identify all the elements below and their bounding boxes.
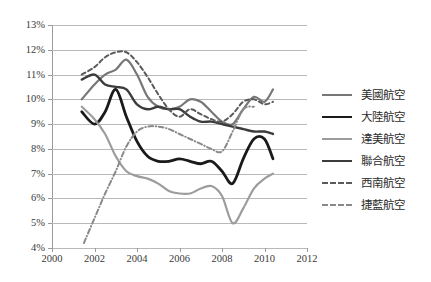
y-tick-label: 4% bbox=[15, 243, 45, 254]
series-line bbox=[82, 60, 273, 125]
y-tick-label: 12% bbox=[15, 45, 45, 56]
legend-item[interactable]: 美國航空 bbox=[322, 84, 427, 106]
legend-swatch-6 bbox=[322, 204, 352, 206]
y-tick-label: 5% bbox=[15, 218, 45, 229]
y-tick-mark bbox=[48, 124, 52, 125]
y-tick-mark bbox=[48, 50, 52, 51]
y-tick-label: 9% bbox=[15, 119, 45, 130]
x-tick-label: 2000 bbox=[32, 253, 72, 264]
legend-label: 大陸航空 bbox=[361, 111, 405, 123]
x-tick-mark bbox=[137, 248, 138, 252]
legend-label: 聯合航空 bbox=[361, 155, 405, 167]
y-tick-label: 13% bbox=[15, 20, 45, 31]
chart-legend: 美國航空大陸航空達美航空聯合航空西南航空捷藍航空 bbox=[322, 84, 427, 216]
x-tick-mark bbox=[307, 248, 308, 252]
y-tick-mark bbox=[48, 99, 52, 100]
legend-swatch-1 bbox=[322, 94, 352, 96]
x-tick-label: 2008 bbox=[202, 253, 242, 264]
legend-label: 達美航空 bbox=[361, 133, 405, 145]
y-tick-mark bbox=[48, 223, 52, 224]
y-tick-mark bbox=[48, 174, 52, 175]
y-tick-mark bbox=[48, 75, 52, 76]
series-line bbox=[82, 74, 273, 134]
x-tick-label: 2006 bbox=[160, 253, 200, 264]
y-tick-mark bbox=[48, 198, 52, 199]
x-tick-label: 2012 bbox=[287, 253, 327, 264]
legend-item[interactable]: 達美航空 bbox=[322, 128, 427, 150]
y-tick-label: 8% bbox=[15, 144, 45, 155]
y-tick-label: 7% bbox=[15, 169, 45, 180]
legend-swatch-5 bbox=[322, 182, 352, 184]
legend-item[interactable]: 大陸航空 bbox=[322, 106, 427, 128]
y-tick-mark bbox=[48, 25, 52, 26]
x-tick-mark bbox=[52, 248, 53, 252]
legend-label: 美國航空 bbox=[361, 89, 405, 101]
legend-swatch-3 bbox=[322, 138, 352, 140]
x-tick-mark bbox=[180, 248, 181, 252]
legend-item[interactable]: 聯合航空 bbox=[322, 150, 427, 172]
legend-swatch-4 bbox=[322, 160, 352, 162]
x-tick-mark bbox=[95, 248, 96, 252]
plot-area bbox=[52, 25, 307, 248]
x-tick-label: 2004 bbox=[117, 253, 157, 264]
y-tick-mark bbox=[48, 149, 52, 150]
legend-item[interactable]: 西南航空 bbox=[322, 172, 427, 194]
y-tick-label: 6% bbox=[15, 193, 45, 204]
x-tick-label: 2010 bbox=[245, 253, 285, 264]
series-line bbox=[84, 107, 254, 243]
x-tick-mark bbox=[265, 248, 266, 252]
series-line bbox=[82, 107, 273, 224]
legend-swatch-2 bbox=[322, 116, 352, 118]
legend-item[interactable]: 捷藍航空 bbox=[322, 194, 427, 216]
x-tick-mark bbox=[222, 248, 223, 252]
chart-container: 4%5%6%7%8%9%10%11%12%13% 200020022004200… bbox=[0, 0, 431, 282]
y-tick-label: 11% bbox=[15, 70, 45, 81]
y-tick-label: 10% bbox=[15, 94, 45, 105]
legend-label: 西南航空 bbox=[361, 177, 405, 189]
series-line bbox=[82, 89, 273, 183]
series-lines bbox=[52, 25, 307, 248]
legend-label: 捷藍航空 bbox=[361, 199, 405, 211]
x-tick-label: 2002 bbox=[75, 253, 115, 264]
